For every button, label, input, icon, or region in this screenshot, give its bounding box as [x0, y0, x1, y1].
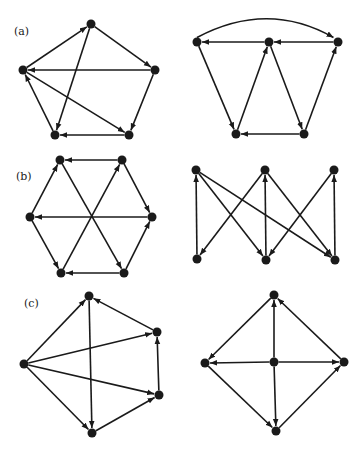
- edge-bottom-to-lower_right: [96, 397, 155, 430]
- node-t2: [261, 166, 270, 175]
- node-right: [340, 358, 349, 367]
- edge-left-to-bottom_right: [27, 72, 125, 132]
- node-left: [201, 359, 210, 368]
- edge-left-to-top: [27, 27, 87, 68]
- node-upper_right: [153, 328, 162, 337]
- node-top: [270, 291, 279, 300]
- edge-right-to-bottom_right: [131, 74, 153, 130]
- edge-left-to-bottom_left: [32, 221, 58, 269]
- node-b2: [262, 256, 271, 265]
- node-left: [26, 213, 35, 222]
- panel-label: (c): [24, 297, 39, 310]
- graph-b-right: [192, 166, 340, 265]
- panel-label: (b): [16, 170, 32, 183]
- node-b1: [193, 255, 202, 264]
- node-bottom_left: [232, 130, 241, 139]
- edge-top-to-left: [209, 298, 271, 359]
- edge-b3-to-t3: [334, 175, 335, 256]
- node-top_left: [56, 156, 65, 165]
- edge-left-to-bottom_left: [199, 46, 234, 129]
- node-top: [87, 20, 96, 29]
- node-bottom_left: [57, 269, 66, 278]
- node-b3: [331, 256, 340, 265]
- edge-b1-to-t1: [196, 175, 197, 255]
- edge-left-to-bottom: [208, 366, 272, 427]
- node-left: [19, 66, 28, 75]
- node-bottom_right: [120, 269, 129, 278]
- edge-middle-to-bottom_right: [271, 46, 303, 129]
- edge-b2-to-t2: [265, 175, 266, 256]
- node-bottom: [272, 427, 281, 436]
- edge-top_right-to-right: [124, 164, 150, 213]
- edge-bottom_right-to-right: [306, 47, 337, 130]
- node-center: [270, 358, 279, 367]
- graph-c-left: [20, 292, 164, 438]
- node-bottom_right: [125, 131, 134, 140]
- node-top_right: [118, 156, 127, 165]
- node-right: [148, 213, 157, 222]
- node-middle: [265, 38, 274, 47]
- edge-left-to-top_left: [32, 164, 58, 213]
- directed-graphs-figure: [0, 0, 364, 453]
- panel-label: (a): [14, 25, 29, 38]
- node-left: [20, 360, 29, 369]
- graph-c-right: [201, 291, 349, 436]
- graph-b-left: [26, 156, 157, 278]
- edge-bottom-to-right: [279, 366, 340, 428]
- node-right: [151, 66, 160, 75]
- node-bottom_right: [300, 130, 309, 139]
- node-lower_right: [155, 391, 164, 400]
- edge-lower_right-to-upper_right: [157, 337, 159, 391]
- node-left: [193, 38, 202, 47]
- edge-upper_right-to-top: [93, 298, 153, 330]
- edge-top-to-bottom: [89, 300, 92, 428]
- node-top: [85, 292, 94, 301]
- node-bottom_left: [51, 131, 60, 140]
- edge-top-to-right: [95, 27, 151, 67]
- graph-a-right: [193, 19, 343, 139]
- edge-center-to-left: [210, 362, 270, 363]
- node-right: [334, 38, 343, 47]
- edge-bottom_left-to-middle: [238, 47, 268, 130]
- edge-bottom_right-to-right: [126, 221, 150, 269]
- edge-center-to-bottom: [274, 366, 276, 426]
- edge-bottom_left-to-left: [25, 74, 53, 130]
- graph-a-left: [19, 20, 160, 140]
- node-bottom: [88, 429, 97, 438]
- node-t1: [192, 166, 201, 175]
- edge-right-to-top: [278, 298, 341, 358]
- node-t3: [330, 166, 339, 175]
- edge-left-to-right: [197, 19, 334, 38]
